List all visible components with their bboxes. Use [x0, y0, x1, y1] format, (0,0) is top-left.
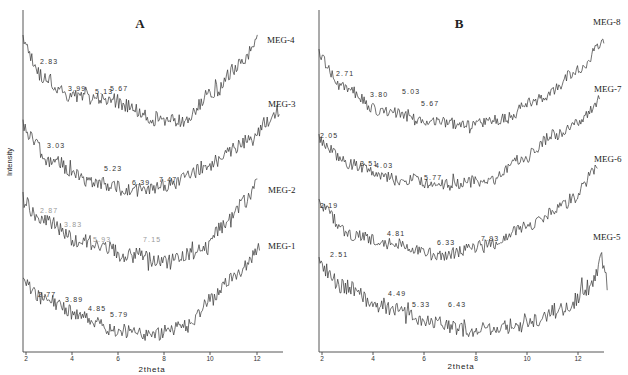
- peak-label: 4.49: [388, 290, 406, 297]
- panel-b-title: B: [455, 16, 464, 31]
- panel-a: A Intensity 2 4 6 8 10 12 2theta MEG-4 M…: [5, 10, 296, 374]
- peak-label: 5.93: [93, 236, 111, 243]
- tick-label: 2: [24, 355, 28, 362]
- trace-meg-7: [319, 96, 600, 191]
- tick-label: 10: [206, 355, 214, 362]
- tick-label: 2: [320, 355, 324, 362]
- peak-label: 2.19: [320, 202, 338, 209]
- panel-a-x-label: 2theta: [138, 365, 165, 374]
- peak-label: 2.05: [320, 132, 338, 139]
- peak-label: 5.77: [424, 174, 442, 181]
- series-label-meg-7: MEG-7: [594, 84, 622, 94]
- panel-a-x-ticks: 2 4 6 8 10 12: [24, 352, 261, 362]
- trace-meg-8: [319, 39, 604, 133]
- peak-label: 5.67: [421, 100, 439, 107]
- series-label-meg-4: MEG-4: [267, 35, 295, 45]
- trace-meg-6: [319, 165, 597, 260]
- peak-label: 5.67: [110, 85, 128, 92]
- panel-b: B 2 4 6 8 10 12 2theta MEG-8 MEG-7 MEG-6…: [319, 10, 622, 371]
- tick-label: 12: [574, 355, 582, 362]
- trace-meg-3: [23, 105, 279, 196]
- tick-label: 6: [422, 355, 426, 362]
- trace-meg-4: [23, 35, 257, 127]
- tick-label: 4: [70, 355, 74, 362]
- peak-label: 5.03: [402, 88, 420, 95]
- tick-label: 4: [371, 355, 375, 362]
- xrd-figure: A Intensity 2 4 6 8 10 12 2theta MEG-4 M…: [0, 0, 628, 375]
- panel-a-title: A: [135, 16, 145, 31]
- peak-label: 5.33: [412, 301, 430, 308]
- peak-label: 4.81: [387, 230, 405, 237]
- trace-meg-2: [23, 179, 257, 271]
- tick-label: 12: [253, 355, 261, 362]
- panel-b-x-label: 2theta: [447, 362, 474, 371]
- series-label-meg-6: MEG-6: [594, 154, 622, 164]
- peak-label: 3.99: [68, 85, 86, 92]
- panel-b-x-ticks: 2 4 6 8 10 12: [320, 352, 582, 362]
- peak-label: 3.03: [47, 142, 65, 149]
- peak-label: 6.33: [437, 239, 455, 246]
- peak-label: 2.51: [330, 251, 348, 258]
- trace-meg-5: [319, 253, 607, 337]
- series-label-meg-3: MEG-3: [268, 99, 296, 109]
- panel-a-y-label: Intensity: [5, 148, 14, 176]
- peak-label: 5.79: [110, 311, 128, 318]
- peak-label: 2.87: [40, 207, 58, 214]
- peak-label: 3.83: [64, 221, 82, 228]
- peak-label: 2.71: [336, 70, 354, 77]
- peak-label: 6.39: [132, 179, 150, 186]
- series-label-meg-8: MEG-8: [593, 17, 621, 27]
- tick-label: 8: [162, 355, 166, 362]
- trace-meg-1: [23, 243, 260, 340]
- series-label-meg-5: MEG-5: [593, 232, 621, 242]
- tick-label: 8: [474, 355, 478, 362]
- peak-label: 7.15: [143, 236, 161, 243]
- series-label-meg-2: MEG-2: [268, 185, 296, 195]
- peak-label: 2.83: [40, 58, 58, 65]
- tick-label: 10: [523, 355, 531, 362]
- peak-label: 7.93: [481, 235, 499, 242]
- series-label-meg-1: MEG-1: [268, 241, 296, 251]
- peak-label: 7.47: [159, 176, 177, 183]
- peak-label: 6.43: [448, 301, 466, 308]
- tick-label: 6: [116, 355, 120, 362]
- peak-label: 4.85: [88, 305, 106, 312]
- peak-label: 4.03: [375, 162, 393, 169]
- peak-label: 2.77: [38, 291, 56, 298]
- peak-label: 3.89: [65, 296, 83, 303]
- peak-label: 3.80: [370, 91, 388, 98]
- peak-label: 5.23: [104, 165, 122, 172]
